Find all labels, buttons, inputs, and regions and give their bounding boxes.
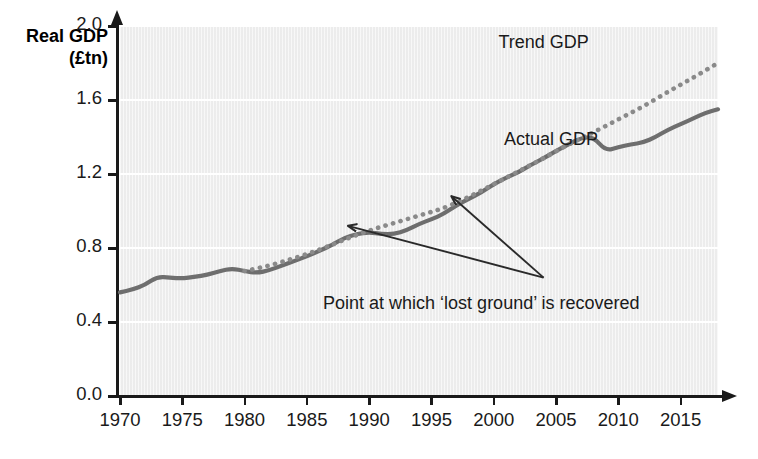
y-tick-mark-0.0: [108, 395, 117, 398]
actual-gdp-label: Actual GDP: [504, 129, 598, 150]
gridline-0.8: [120, 247, 718, 249]
x-tick-label-1985: 1985: [272, 409, 342, 431]
gridline-2.0: [120, 25, 718, 27]
x-tick-mark-2015: [680, 396, 683, 405]
y-tick-label-0.8: 0.8: [44, 235, 102, 257]
x-tick-mark-1985: [306, 396, 309, 405]
x-axis-line: [116, 395, 724, 398]
x-tick-label-1970: 1970: [85, 409, 155, 431]
trend-gdp-label: Trend GDP: [498, 32, 588, 53]
y-tick-label-1.6: 1.6: [44, 87, 102, 109]
plot-area-background: [120, 26, 718, 396]
y-axis-line: [116, 22, 119, 398]
x-tick-label-1975: 1975: [147, 409, 217, 431]
x-tick-mark-1995: [430, 396, 433, 405]
x-tick-mark-2005: [555, 396, 558, 405]
x-tick-label-1980: 1980: [210, 409, 280, 431]
y-axis-title-line2: (£tn): [0, 48, 108, 70]
y-tick-label-2.0: 2.0: [44, 13, 102, 35]
y-tick-mark-1.6: [108, 99, 117, 102]
y-tick-mark-2.0: [108, 25, 117, 28]
x-tick-label-2010: 2010: [583, 409, 653, 431]
gridline-1.2: [120, 173, 718, 175]
x-tick-label-2015: 2015: [646, 409, 716, 431]
x-tick-mark-1990: [368, 396, 371, 405]
x-tick-mark-1970: [119, 396, 122, 405]
x-tick-mark-2000: [493, 396, 496, 405]
x-tick-label-2000: 2000: [459, 409, 529, 431]
x-tick-label-1990: 1990: [334, 409, 404, 431]
y-tick-mark-0.4: [108, 321, 117, 324]
x-tick-label-2005: 2005: [521, 409, 591, 431]
y-tick-label-0.0: 0.0: [44, 383, 102, 405]
x-tick-mark-1980: [244, 396, 247, 405]
y-tick-label-1.2: 1.2: [44, 161, 102, 183]
chart-figure: Real GDP (£tn) 0.00.40.81.21.62.0 197019…: [0, 0, 758, 459]
y-tick-mark-1.2: [108, 173, 117, 176]
x-tick-mark-1975: [181, 396, 184, 405]
recovery-note: Point at which ‘lost ground’ is recovere…: [323, 293, 640, 314]
y-tick-mark-0.8: [108, 247, 117, 250]
x-tick-label-1995: 1995: [396, 409, 466, 431]
y-tick-label-0.4: 0.4: [44, 309, 102, 331]
gridline-0.4: [120, 321, 718, 323]
y-axis-arrowhead-icon: [111, 10, 123, 25]
x-axis-arrowhead-icon: [722, 390, 737, 402]
x-tick-mark-2010: [617, 396, 620, 405]
gridline-1.6: [120, 99, 718, 101]
